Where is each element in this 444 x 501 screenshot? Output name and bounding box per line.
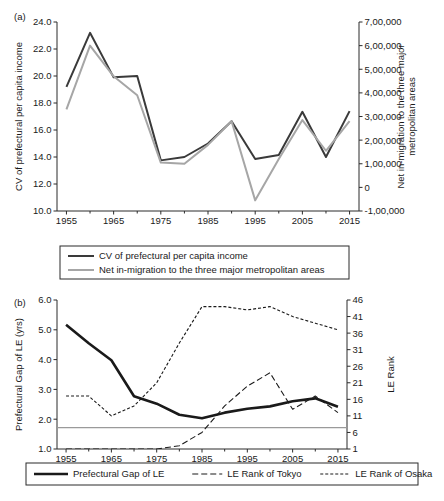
legend-label: CV of prefectural per capita income bbox=[99, 250, 248, 261]
x-tick-label: 1965 bbox=[103, 215, 124, 226]
legend-label: LE Rank of Osaka bbox=[355, 468, 433, 479]
chart-a: (a)10.012.014.016.018.020.022.024.0-1,00… bbox=[0, 0, 444, 292]
panel-b: (b)1.02.03.04.05.06.01611162126313641461… bbox=[0, 292, 444, 501]
legend-a: CV of prefectural per capita incomeNet i… bbox=[60, 246, 349, 279]
y-tick-label-left: 20.0 bbox=[33, 70, 52, 81]
y-tick-label-left: 12.0 bbox=[33, 178, 52, 189]
y-tick-label-left: 16.0 bbox=[33, 124, 52, 135]
y-tick-label-right: 0 bbox=[365, 182, 370, 193]
x-tick-label: 1975 bbox=[146, 453, 167, 464]
y-tick-label-left: 3.0 bbox=[38, 384, 51, 395]
panel-letter-b: (b) bbox=[14, 297, 26, 308]
plot-area-b bbox=[57, 307, 347, 449]
legend-b: Prefectural Gap of LELE Rank of TokyoLE … bbox=[26, 463, 433, 485]
y-tick-label-right: 46 bbox=[353, 294, 364, 305]
y-tick-label-right: 11 bbox=[353, 410, 363, 421]
y-tick-label-left: 2.0 bbox=[38, 414, 51, 425]
x-tick-label: 1995 bbox=[237, 453, 258, 464]
x-tick-label: 1985 bbox=[191, 453, 212, 464]
y-tick-label-right: 41 bbox=[353, 311, 364, 322]
y-tick-label-left: 5.0 bbox=[38, 324, 51, 335]
x-tick-label: 1955 bbox=[56, 215, 77, 226]
x-tick-label: 1985 bbox=[197, 215, 218, 226]
x-tick-label: 2015 bbox=[339, 215, 360, 226]
y-axis-title-left: CV of prefectural per capita income bbox=[13, 42, 24, 191]
y-tick-label-right: 1 bbox=[353, 443, 358, 454]
panel-a: (a)10.012.014.016.018.020.022.024.0-1,00… bbox=[0, 0, 444, 292]
y-tick-label-left: 10.0 bbox=[33, 205, 52, 216]
y-tick-label-left: 24.0 bbox=[33, 16, 52, 27]
y-tick-label-right: 6 bbox=[353, 427, 358, 438]
x-tick-label: 1965 bbox=[101, 453, 122, 464]
y-tick-label-left: 22.0 bbox=[33, 43, 52, 54]
plot-area-a bbox=[66, 33, 349, 201]
x-tick-label: 2015 bbox=[327, 453, 348, 464]
x-tick-label: 1995 bbox=[245, 215, 266, 226]
x-tick-label: 2005 bbox=[282, 453, 303, 464]
series-line-le-rank-of-tokyo bbox=[66, 373, 338, 449]
y-tick-label-right: 16 bbox=[353, 394, 364, 405]
legend-label: Net in-migration to the three major metr… bbox=[99, 264, 325, 275]
series-line-cv-of-prefectural-per-capita-income bbox=[66, 33, 349, 161]
panel-letter-a: (a) bbox=[14, 11, 26, 22]
y-tick-label-left: 6.0 bbox=[38, 294, 51, 305]
y-tick-label-right: 21 bbox=[353, 377, 364, 388]
series-line-net-in-migration-to-the-three-major-metropolitan-areas bbox=[66, 46, 349, 201]
y-axis-title-right-line2: metropolitan areas bbox=[406, 77, 417, 156]
legend-label: Prefectural Gap of LE bbox=[73, 468, 164, 479]
y-axis-title-left: Prefectural Gap of LE (yrs) bbox=[13, 318, 24, 431]
figure-root: (a)10.012.014.016.018.020.022.024.0-1,00… bbox=[0, 0, 444, 501]
legend-label: LE Rank of Tokyo bbox=[227, 468, 301, 479]
x-tick-label: 1955 bbox=[55, 453, 76, 464]
y-tick-label-left: 1.0 bbox=[38, 443, 51, 454]
y-axis-title-right: LE Rank bbox=[385, 356, 396, 393]
x-tick-label: 1975 bbox=[150, 215, 171, 226]
y-tick-label-right: 31 bbox=[353, 344, 364, 355]
series-line-prefectural-gap-of-le bbox=[66, 325, 338, 419]
y-tick-label-left: 14.0 bbox=[33, 151, 52, 162]
y-tick-label-left: 4.0 bbox=[38, 354, 51, 365]
y-tick-label-right: 36 bbox=[353, 328, 364, 339]
y-tick-label-left: 18.0 bbox=[33, 97, 52, 108]
y-axis-title-right: Net in-migration to the three major bbox=[395, 44, 406, 188]
y-tick-label-right: 26 bbox=[353, 361, 364, 372]
chart-b: (b)1.02.03.04.05.06.01611162126313641461… bbox=[0, 292, 444, 501]
y-tick-label-right: 7,00,000 bbox=[365, 16, 402, 27]
y-tick-label-right: -1,00,000 bbox=[365, 205, 405, 216]
x-tick-label: 2005 bbox=[292, 215, 313, 226]
